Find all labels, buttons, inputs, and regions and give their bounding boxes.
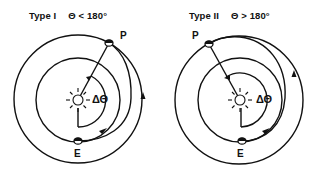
earth-label: E xyxy=(74,148,81,159)
earth-label: E xyxy=(237,148,244,159)
diagram-type-2: Type IIΘ > 180° P E ΔΘ xyxy=(160,0,320,178)
planet-label: P xyxy=(120,30,127,41)
angle-label: ΔΘ xyxy=(92,93,108,105)
sun-planet-line xyxy=(209,44,240,100)
diagram-type-1: Type IΘ < 180° xyxy=(0,0,160,178)
sun-icon xyxy=(228,88,252,112)
angle-label: ΔΘ xyxy=(256,93,272,105)
planet-label: P xyxy=(192,30,199,41)
sun-icon xyxy=(66,88,90,112)
